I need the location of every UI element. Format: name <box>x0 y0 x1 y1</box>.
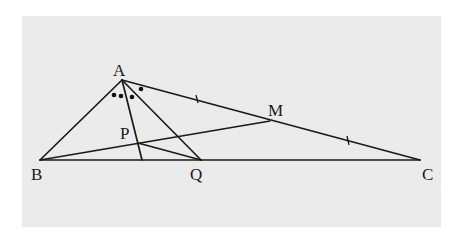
angle-dot-3 <box>130 95 135 100</box>
segment-aq <box>122 80 201 160</box>
label-p: P <box>120 124 129 143</box>
label-m: M <box>268 101 283 120</box>
label-b: B <box>31 165 42 184</box>
label-a: A <box>113 61 126 80</box>
label-q: Q <box>190 165 202 184</box>
triangle-diagram: A B C M P Q <box>0 0 463 238</box>
segment-a-foot <box>122 80 142 160</box>
angle-dot-1 <box>112 93 117 98</box>
label-c: C <box>422 165 433 184</box>
tick-mark-am <box>196 95 198 103</box>
angle-dot-2 <box>119 94 124 99</box>
segment-ac <box>122 80 420 160</box>
angle-dot-4 <box>139 87 144 92</box>
